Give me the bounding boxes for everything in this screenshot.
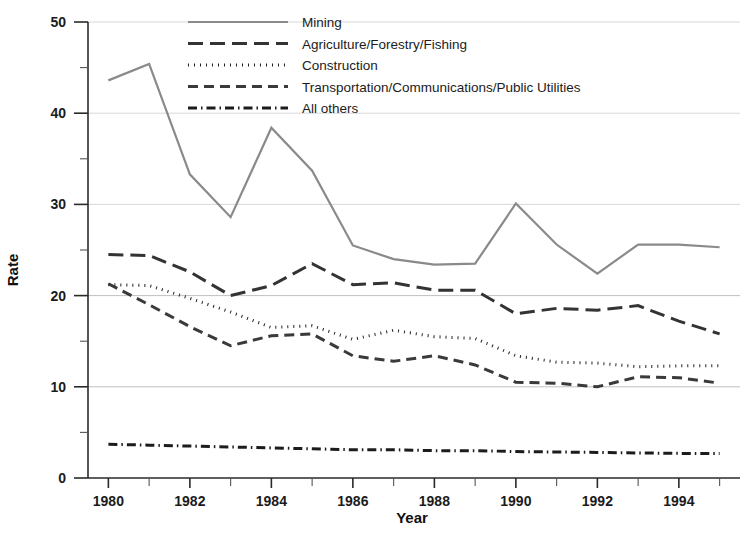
y-tick-label-40: 40 [50, 105, 66, 121]
data-series-group [108, 64, 719, 453]
series-line-agriculture-forestry-fishing [108, 255, 719, 334]
x-axis-title: Year [396, 509, 428, 526]
x-tick-label-1994: 1994 [663, 493, 694, 509]
y-axis-ticks [74, 22, 88, 478]
series-line-construction [108, 285, 719, 367]
y-tick-label-0: 0 [58, 470, 66, 486]
y-tick-label-10: 10 [50, 379, 66, 395]
x-tick-label-1986: 1986 [337, 493, 368, 509]
legend-label-construction: Construction [302, 58, 378, 73]
x-tick-label-1982: 1982 [174, 493, 205, 509]
legend-label-all-others: All others [302, 101, 359, 116]
y-tick-label-50: 50 [50, 14, 66, 30]
x-axis-tick-labels: 19801982198419861988199019921994 [93, 493, 695, 509]
line-chart: 01020304050 1980198219841986198819901992… [0, 0, 755, 535]
gridlines [88, 22, 740, 387]
x-tick-label-1984: 1984 [256, 493, 287, 509]
legend: MiningAgriculture/Forestry/FishingConstr… [188, 15, 581, 116]
series-line-all-others [108, 444, 719, 453]
x-axis: 19801982198419861988199019921994 [88, 478, 740, 509]
y-tick-label-30: 30 [50, 196, 66, 212]
legend-label-transportation-communications-public-utilities: Transportation/Communications/Public Uti… [302, 80, 581, 95]
series-line-mining [108, 64, 719, 274]
x-tick-label-1992: 1992 [582, 493, 613, 509]
x-tick-label-1980: 1980 [93, 493, 124, 509]
y-tick-label-20: 20 [50, 288, 66, 304]
y-axis: 01020304050 [50, 14, 88, 486]
y-axis-tick-labels: 01020304050 [50, 14, 66, 486]
y-axis-title: Rate [4, 254, 21, 287]
legend-label-agriculture-forestry-fishing: Agriculture/Forestry/Fishing [302, 37, 467, 52]
x-tick-label-1988: 1988 [419, 493, 450, 509]
chart-canvas: 01020304050 1980198219841986198819901992… [0, 0, 755, 535]
legend-label-mining: Mining [302, 15, 342, 30]
x-axis-ticks [108, 478, 719, 488]
series-line-transportation-communications-public-utilities [108, 284, 719, 387]
x-tick-label-1990: 1990 [500, 493, 531, 509]
